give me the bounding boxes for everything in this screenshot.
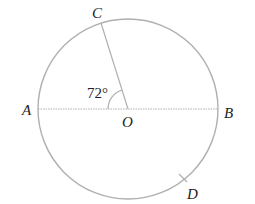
angle-label: 72° <box>87 85 108 101</box>
circle-diagram: C A B O D 72° <box>0 0 255 204</box>
label-a: A <box>21 102 32 118</box>
label-c: C <box>92 5 103 21</box>
label-d: D <box>186 186 198 202</box>
angle-arc <box>108 90 122 109</box>
label-b: B <box>224 105 233 121</box>
label-o: O <box>122 114 133 130</box>
